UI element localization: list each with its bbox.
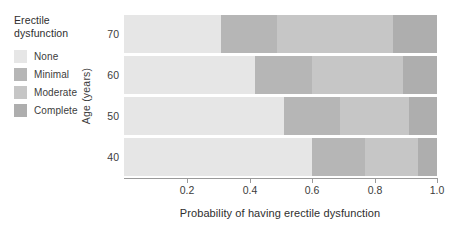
- x-tick-label-0.6: 0.6: [305, 184, 320, 196]
- bar-segment-60-none: [124, 56, 255, 94]
- x-tick-label-0.8: 0.8: [368, 184, 383, 196]
- x-tick-0.4: [250, 178, 251, 183]
- legend-label-none: None: [34, 51, 58, 62]
- x-tick-0.8: [375, 178, 376, 183]
- bar-segment-60-moderate: [312, 56, 403, 94]
- legend-title: Erectile dysfunction: [14, 14, 100, 40]
- bar-segment-50-complete: [409, 97, 437, 135]
- x-tick-0.2: [187, 178, 188, 183]
- x-tick-label-1.0: 1.0: [430, 184, 445, 196]
- bar-segment-40-none: [124, 138, 312, 176]
- bar-segment-70-moderate: [277, 15, 393, 53]
- bar-segment-60-complete: [403, 56, 437, 94]
- bar-segment-40-minimal: [312, 138, 365, 176]
- bar-row-age-70: [124, 15, 437, 53]
- legend-swatch-complete: [14, 104, 27, 117]
- x-tick-label-0.4: 0.4: [243, 184, 258, 196]
- bar-segment-70-minimal: [221, 15, 277, 53]
- legend-swatch-none: [14, 50, 27, 63]
- bar-segment-70-none: [124, 15, 221, 53]
- bar-segment-40-complete: [418, 138, 437, 176]
- y-tick-label-50: 50: [103, 110, 119, 122]
- plot-area: [124, 15, 437, 178]
- bar-row-age-60: [124, 56, 437, 94]
- legend-item-none: None: [14, 48, 100, 65]
- bar-segment-50-minimal: [284, 97, 340, 135]
- y-tick-label-60: 60: [103, 69, 119, 81]
- x-axis-title: Probability of having erectile dysfuncti…: [180, 207, 380, 219]
- y-tick-label-40: 40: [103, 151, 119, 163]
- legend-swatch-moderate: [14, 86, 27, 99]
- legend-title-line-1: Erectile: [14, 14, 100, 27]
- x-tick-label-0.2: 0.2: [180, 184, 195, 196]
- erectile-dysfunction-stacked-bar-chart: Erectile dysfunction None Minimal Modera…: [0, 0, 468, 231]
- bar-segment-50-moderate: [340, 97, 409, 135]
- legend-swatch-minimal: [14, 68, 27, 81]
- y-axis-title: Age (years): [80, 68, 92, 124]
- bar-segment-50-none: [124, 97, 284, 135]
- bar-row-age-40: [124, 138, 437, 176]
- bar-segment-70-complete: [393, 15, 437, 53]
- y-tick-label-70: 70: [103, 28, 119, 40]
- x-axis-line: [124, 178, 437, 179]
- legend-title-line-2: dysfunction: [14, 27, 100, 40]
- bar-segment-60-minimal: [255, 56, 311, 94]
- legend-label-moderate: Moderate: [34, 87, 77, 98]
- x-tick-0.6: [312, 178, 313, 183]
- x-tick-1.0: [437, 178, 438, 183]
- bar-segment-40-moderate: [365, 138, 418, 176]
- bar-row-age-50: [124, 97, 437, 135]
- legend-label-complete: Complete: [34, 105, 78, 116]
- legend-label-minimal: Minimal: [34, 69, 69, 80]
